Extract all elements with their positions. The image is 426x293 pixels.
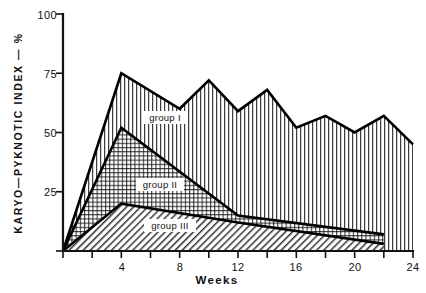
x-tick-label-4: 4: [119, 261, 126, 273]
y-axis-title: KARYO—PYKNOTIC INDEX — %: [12, 32, 24, 233]
chart-container: 100 75 50 25 4 8 12 16 20 24 Weeks KARYO…: [0, 0, 426, 293]
y-tick-label-100: 100: [37, 9, 57, 21]
x-tick-label-20: 20: [348, 261, 361, 273]
x-tick-labels: 4 8 12 16 20 24: [119, 261, 420, 273]
series-label-group-1: group I: [149, 112, 181, 123]
x-tick-label-24: 24: [406, 261, 419, 273]
y-tick-label-25: 25: [44, 186, 57, 198]
series-label-group-3: group III: [151, 220, 189, 231]
y-tick-label-75: 75: [44, 68, 57, 80]
series-label-group-2: group II: [143, 179, 178, 190]
x-tick-label-16: 16: [289, 261, 302, 273]
x-tick-label-12: 12: [231, 261, 244, 273]
y-tick-labels: 100 75 50 25: [37, 9, 57, 198]
y-tick-label-50: 50: [44, 127, 57, 139]
x-tick-label-8: 8: [177, 261, 184, 273]
karyo-pyknotic-index-chart: 100 75 50 25 4 8 12 16 20 24 Weeks KARYO…: [0, 0, 426, 293]
x-axis-title: Weeks: [195, 274, 238, 286]
